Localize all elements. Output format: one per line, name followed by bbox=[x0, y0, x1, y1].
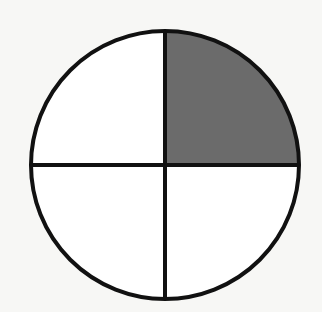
fraction-circle-diagram bbox=[0, 0, 322, 312]
